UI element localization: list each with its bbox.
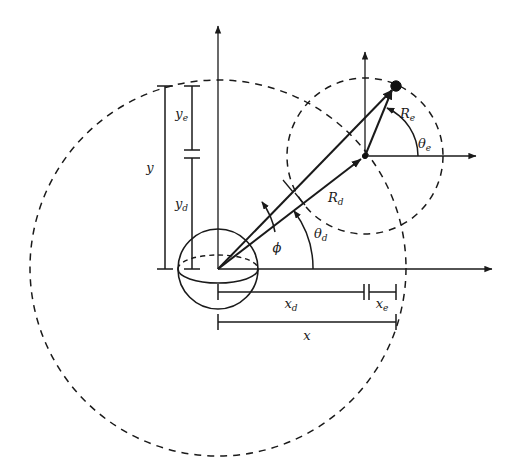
physics-diagram-canvas: y ye yd xd xe x Re Rd θe θd ϕ (0, 0, 515, 475)
target-point-dot (391, 81, 401, 91)
label-ye: ye (174, 106, 188, 123)
planet-equator-front (178, 269, 258, 283)
label-xd: xd (284, 296, 297, 313)
label-theta-e: θe (418, 136, 431, 153)
geometry-figure: y ye yd xd xe x Re Rd θe θd ϕ (0, 0, 515, 475)
angle-arc-theta-d (294, 211, 313, 269)
label-xe: xe (376, 296, 389, 313)
label-yd: yd (174, 196, 188, 213)
label-x: x (303, 328, 311, 343)
label-phi: ϕ (273, 240, 282, 255)
label-y: y (145, 160, 154, 175)
label-Rd: Rd (327, 190, 344, 207)
label-Re: Re (399, 106, 415, 123)
secondary-origin-dot (362, 153, 367, 158)
vector-tick-upper (283, 180, 293, 192)
vector-tick-lower (295, 193, 305, 205)
vector-Re (365, 90, 392, 156)
label-theta-d: θd (314, 226, 328, 243)
vector-R-total (218, 90, 392, 269)
